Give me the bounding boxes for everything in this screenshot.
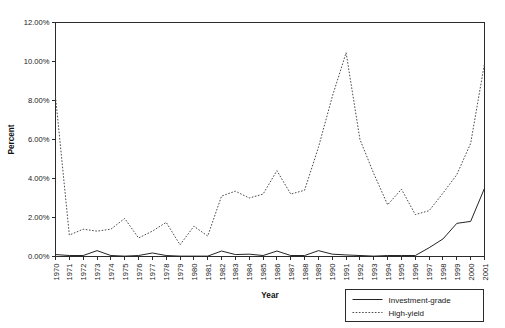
y-tick-label: 4.00% bbox=[28, 174, 50, 183]
y-tick-label: 2.00% bbox=[28, 213, 50, 222]
x-tick-label: 1986 bbox=[273, 264, 282, 281]
legend-label-investment-grade: Investment-grade bbox=[389, 296, 452, 305]
y-tick-label: 12.00% bbox=[24, 18, 50, 27]
x-tick-label: 1999 bbox=[453, 264, 462, 281]
x-tick-label: 1977 bbox=[148, 264, 157, 281]
x-tick-label: 1976 bbox=[135, 264, 144, 281]
x-tick-label: 1987 bbox=[287, 264, 296, 281]
x-tick-label: 1975 bbox=[121, 264, 130, 281]
series-line-high-yield bbox=[56, 53, 485, 245]
x-tick-label: 1970 bbox=[52, 264, 61, 281]
x-tick-label: 1990 bbox=[328, 264, 337, 281]
x-tick-label: 1979 bbox=[176, 264, 185, 281]
x-tick-label: 1973 bbox=[93, 264, 102, 281]
x-tick-label: 1998 bbox=[439, 264, 448, 281]
x-axis: 1970197119721973197419751976197719781979… bbox=[52, 257, 490, 281]
x-tick-label: 1989 bbox=[314, 264, 323, 281]
x-tick-label: 1992 bbox=[356, 264, 365, 281]
x-tick-label: 1997 bbox=[425, 264, 434, 281]
plot-frame bbox=[56, 23, 485, 257]
x-tick-label: 1974 bbox=[107, 264, 116, 281]
x-tick-label: 1971 bbox=[65, 264, 74, 281]
x-tick-label: 1985 bbox=[259, 264, 268, 281]
x-tick-label: 1978 bbox=[162, 264, 171, 281]
x-axis-title: Year bbox=[261, 291, 279, 300]
y-tick-label: 8.00% bbox=[28, 96, 50, 105]
x-tick-label: 2000 bbox=[467, 264, 476, 281]
x-tick-label: 1994 bbox=[384, 264, 393, 281]
x-tick-label: 1993 bbox=[370, 264, 379, 281]
x-tick-label: 1980 bbox=[190, 264, 199, 281]
x-tick-label: 1991 bbox=[342, 264, 351, 281]
x-tick-label: 2001 bbox=[481, 264, 490, 281]
line-chart: 0.00%2.00%4.00%6.00%8.00%10.00%12.00%Per… bbox=[0, 0, 505, 328]
x-tick-label: 1996 bbox=[411, 264, 420, 281]
x-tick-label: 1983 bbox=[231, 264, 240, 281]
x-tick-label: 1995 bbox=[397, 264, 406, 281]
y-tick-label: 0.00% bbox=[28, 252, 50, 261]
y-tick-label: 6.00% bbox=[28, 135, 50, 144]
y-axis-title: Percent bbox=[7, 124, 16, 154]
x-tick-label: 1984 bbox=[245, 264, 254, 281]
x-tick-label: 1988 bbox=[301, 264, 310, 281]
y-axis: 0.00%2.00%4.00%6.00%8.00%10.00%12.00% bbox=[24, 18, 56, 261]
chart-canvas: 0.00%2.00%4.00%6.00%8.00%10.00%12.00%Per… bbox=[0, 0, 505, 328]
chart-legend: Investment-gradeHigh-yield bbox=[346, 290, 484, 322]
y-tick-label: 10.00% bbox=[24, 57, 50, 66]
x-tick-label: 1981 bbox=[204, 264, 213, 281]
legend-label-high-yield: High-yield bbox=[389, 309, 425, 318]
x-tick-label: 1972 bbox=[79, 264, 88, 281]
x-tick-label: 1982 bbox=[218, 264, 227, 281]
